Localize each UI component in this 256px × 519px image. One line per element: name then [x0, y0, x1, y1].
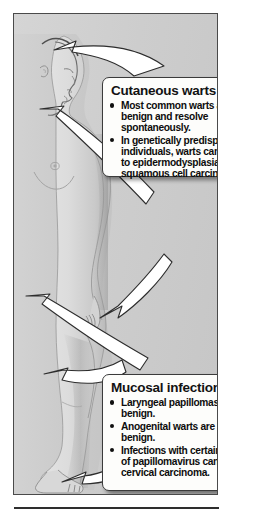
list-item: Infections with certain types of papillo… [110, 445, 218, 479]
callout-title-mucosal: Mucosal infections [111, 380, 218, 395]
bullet-text: Most common warts are benign and resolve… [121, 100, 218, 133]
bullet-text: Infections with certain types of papillo… [121, 445, 218, 478]
caption-divider-rule [14, 507, 219, 509]
bullet-dot-icon [110, 424, 114, 428]
bullet-text: In genetically predisposed individuals, … [121, 135, 218, 180]
callout-title-cutaneous: Cutaneous warts [111, 83, 218, 98]
illustration-panel: Cutaneous warts Most common warts are be… [13, 13, 218, 495]
list-item: Anogenital warts are usually benign. [110, 421, 218, 443]
bullet-dot-icon [110, 400, 114, 404]
list-item: Laryngeal papillomas are benign. [110, 397, 218, 419]
list-item: In genetically predisposed individuals, … [110, 135, 218, 180]
callout-cutaneous-warts: Cutaneous warts Most common warts are be… [102, 77, 218, 177]
bullet-dot-icon [110, 448, 114, 452]
bullet-text: Laryngeal papillomas are benign. [121, 397, 218, 419]
bullet-text: Anogenital warts are usually benign. [121, 421, 218, 443]
bullet-dot-icon [110, 138, 114, 142]
bullet-list-mucosal: Laryngeal papillomas are benign. Anogeni… [110, 397, 218, 478]
bullet-list-cutaneous: Most common warts are benign and resolve… [110, 100, 218, 179]
callout-mucosal-infections: Mucosal infections Laryngeal papillomas … [102, 374, 218, 491]
list-item: Most common warts are benign and resolve… [110, 100, 218, 134]
bullet-dot-icon [110, 103, 114, 107]
